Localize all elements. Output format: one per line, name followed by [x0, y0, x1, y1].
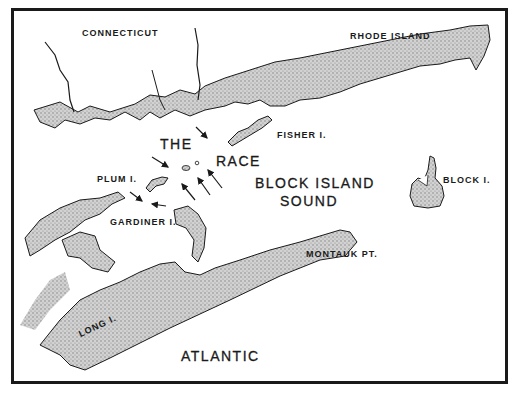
- label-block-island: BLOCK I.: [443, 175, 491, 185]
- label-race: RACE: [216, 153, 261, 169]
- current-arrow: [198, 178, 210, 195]
- fisher-island: [228, 116, 272, 146]
- label-gardiner-island: GARDINER I.: [110, 217, 177, 227]
- race-islet: [195, 161, 199, 165]
- label-the: THE: [160, 136, 193, 152]
- label-connecticut: CONNECTICUT: [82, 28, 159, 38]
- current-arrow: [196, 127, 207, 138]
- label-atlantic: ATLANTIC: [181, 348, 260, 364]
- current-arrow: [182, 184, 195, 200]
- race-islet: [182, 166, 190, 171]
- label-sound: SOUND: [280, 193, 338, 209]
- river: [45, 42, 74, 112]
- river: [195, 28, 200, 100]
- current-arrow: [130, 192, 142, 201]
- current-arrow: [152, 204, 166, 206]
- gardiner-island: [174, 206, 206, 262]
- plum-island: [146, 177, 168, 192]
- label-fisher-island: FISHER I.: [277, 130, 327, 140]
- map-canvas: [0, 0, 514, 395]
- label-plum-island: PLUM I.: [97, 174, 137, 184]
- label-rhode-island: RHODE ISLAND: [350, 31, 431, 41]
- current-arrow: [152, 157, 168, 167]
- shelter-island: [62, 232, 115, 272]
- label-montauk-point: MONTAUK PT.: [306, 249, 378, 259]
- label-block-island-sound: BLOCK ISLAND: [255, 175, 375, 191]
- current-arrow: [208, 170, 222, 188]
